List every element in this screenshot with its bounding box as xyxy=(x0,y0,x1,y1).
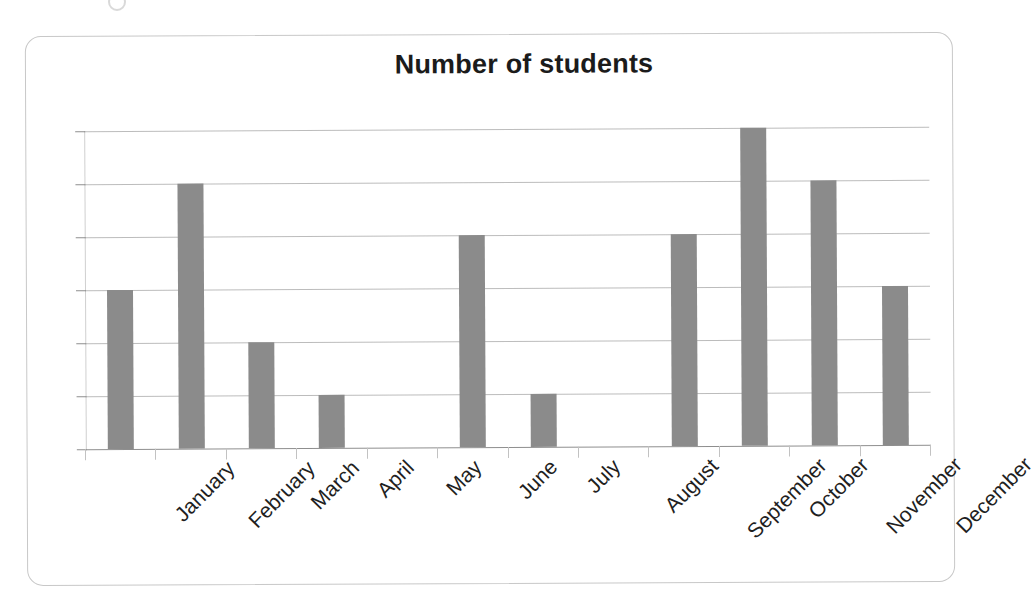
bar-slot xyxy=(718,128,790,446)
x-axis-tick-label: January xyxy=(170,456,240,526)
x-axis-tick-label: July xyxy=(582,454,625,497)
x-axis-tick-label: August xyxy=(660,454,723,517)
bar[interactable] xyxy=(248,342,275,448)
bar-slot xyxy=(577,128,649,446)
plot-area: 0123456 xyxy=(84,127,931,449)
bar[interactable] xyxy=(459,235,486,447)
bar-slot xyxy=(788,127,860,445)
bar[interactable] xyxy=(530,394,556,447)
bar-slot xyxy=(507,129,579,447)
bar[interactable] xyxy=(107,290,134,449)
bar-slot xyxy=(295,130,367,448)
bar[interactable] xyxy=(319,395,345,448)
x-axis-tick-mark xyxy=(930,445,931,456)
x-axis-tick-label: April xyxy=(372,456,419,503)
bar-slot xyxy=(225,130,297,448)
bar[interactable] xyxy=(811,180,838,445)
bar-slot xyxy=(366,129,438,447)
bar-slot xyxy=(155,130,227,448)
bar[interactable] xyxy=(882,286,909,445)
scan-artifact xyxy=(108,0,126,11)
bar-series xyxy=(84,127,931,449)
x-axis-tick-label: December xyxy=(951,452,1035,538)
x-axis-tick-label: March xyxy=(306,456,364,514)
bar-slot xyxy=(436,129,508,447)
bar-slot xyxy=(859,127,931,445)
bar[interactable] xyxy=(177,184,204,449)
bar[interactable] xyxy=(670,234,697,446)
bar-slot xyxy=(647,128,719,446)
x-axis-tick-label: June xyxy=(514,455,563,504)
chart-title: Number of students xyxy=(0,47,978,82)
x-axis-tick-labels: JanuaryFebruaryMarchAprilMayJuneJulyAugu… xyxy=(85,453,931,567)
bar[interactable] xyxy=(740,128,768,446)
x-axis-tick-label: May xyxy=(442,455,487,500)
bar-slot xyxy=(84,131,156,449)
